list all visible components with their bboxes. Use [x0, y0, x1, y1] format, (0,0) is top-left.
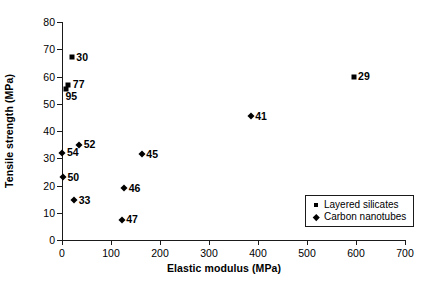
data-point-label: 47: [126, 214, 138, 225]
data-point-label: 95: [65, 90, 77, 101]
y-tick-label: 10: [43, 208, 55, 219]
data-point[interactable]: 29: [351, 74, 356, 79]
diamond-marker-icon: [118, 216, 125, 223]
y-tick-label: 60: [43, 71, 55, 82]
data-point[interactable]: 45: [139, 152, 144, 157]
data-point[interactable]: 41: [248, 114, 253, 119]
x-tick-mark: [160, 240, 161, 245]
x-tick-mark: [62, 240, 63, 245]
x-tick-label: 400: [249, 248, 267, 259]
data-point-label: 29: [358, 71, 370, 82]
y-tick-mark: [57, 104, 62, 105]
diamond-marker-icon: [247, 112, 254, 119]
data-point-label: 45: [146, 149, 158, 160]
x-axis-title: Elastic modulus (MPa): [0, 262, 448, 274]
x-tick-label: 600: [347, 248, 365, 259]
data-point-label: 41: [255, 111, 267, 122]
y-tick-label: 70: [43, 44, 55, 55]
data-point-label: 54: [67, 148, 79, 159]
y-tick-label: 20: [43, 180, 55, 191]
y-axis-title-label: Tensile strength (MPa): [3, 74, 15, 188]
square-marker-icon: [311, 203, 321, 208]
chart-legend: Layered silicatesCarbon nanotubes: [305, 195, 414, 227]
y-tick-mark: [57, 49, 62, 50]
legend-item[interactable]: Layered silicates: [311, 199, 406, 211]
y-axis-line: [62, 22, 63, 240]
x-tick-mark: [258, 240, 259, 245]
x-tick-mark: [209, 240, 210, 245]
legend-item-label: Layered silicates: [324, 200, 398, 210]
data-point-label: 30: [76, 52, 88, 63]
x-tick-mark: [307, 240, 308, 245]
data-point-label: 52: [84, 139, 96, 150]
y-tick-mark: [57, 22, 62, 23]
x-tick-mark: [356, 240, 357, 245]
data-point[interactable]: 47: [119, 217, 124, 222]
y-tick-label: 80: [43, 17, 55, 28]
y-tick-mark: [57, 77, 62, 78]
y-axis-title: Tensile strength (MPa): [2, 22, 16, 240]
diamond-marker-icon: [59, 174, 66, 181]
square-marker-icon: [69, 55, 74, 60]
x-axis-line: [62, 240, 405, 241]
y-tick-label: 40: [43, 126, 55, 137]
diamond-marker-icon: [138, 151, 145, 158]
x-tick-mark: [405, 240, 406, 245]
square-marker-icon: [351, 74, 356, 79]
x-tick-label: 300: [200, 248, 218, 259]
diamond-marker-icon: [71, 197, 78, 204]
data-point[interactable]: 50: [60, 175, 65, 180]
y-tick-mark: [57, 158, 62, 159]
y-tick-mark: [57, 186, 62, 187]
data-point[interactable]: 95: [63, 86, 68, 91]
diamond-marker-icon: [121, 185, 128, 192]
data-point[interactable]: 54: [60, 150, 65, 155]
legend-item-label: Carbon nanotubes: [324, 212, 406, 222]
y-tick-label: 50: [43, 99, 55, 110]
x-tick-label: 200: [151, 248, 169, 259]
data-point[interactable]: 46: [122, 186, 127, 191]
diamond-marker-icon: [59, 149, 66, 156]
y-tick-mark: [57, 131, 62, 132]
diamond-marker-icon: [311, 215, 321, 220]
scatter-chart-figure: Tensile strength (MPa) 01020304050607080…: [0, 0, 448, 287]
data-point-label: 33: [79, 195, 91, 206]
y-tick-label: 0: [49, 235, 55, 246]
data-point-label: 50: [67, 172, 79, 183]
legend-item[interactable]: Carbon nanotubes: [311, 211, 406, 223]
y-tick-label: 30: [43, 153, 55, 164]
data-point-label: 46: [129, 183, 141, 194]
x-tick-label: 100: [102, 248, 120, 259]
x-tick-label: 700: [396, 248, 414, 259]
x-tick-label: 500: [298, 248, 316, 259]
data-point[interactable]: 33: [72, 198, 77, 203]
y-tick-mark: [57, 213, 62, 214]
x-tick-mark: [111, 240, 112, 245]
data-point[interactable]: 30: [69, 55, 74, 60]
x-tick-label: 0: [59, 248, 65, 259]
